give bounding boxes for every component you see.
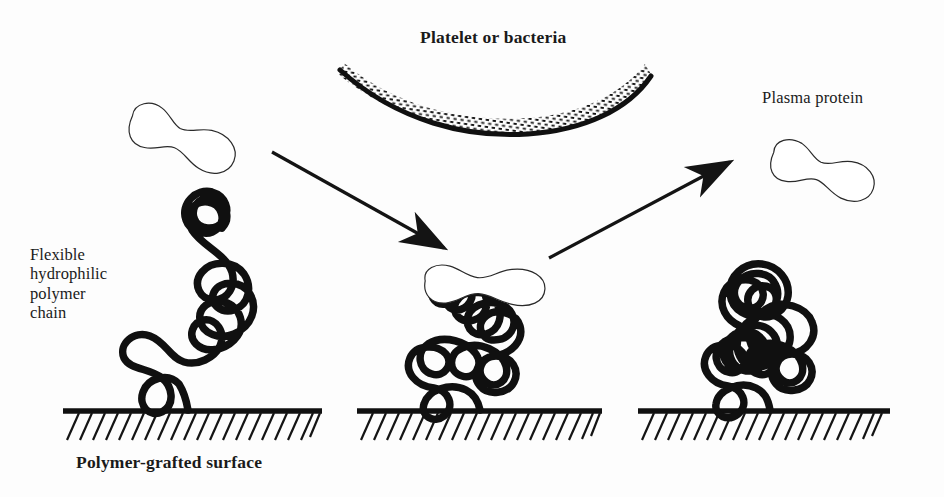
polymer-grafted-surface-2 [357, 411, 602, 440]
diagram-illustration [0, 0, 944, 497]
plasma-protein-released [766, 135, 880, 208]
plasma-protein-incoming [123, 98, 243, 181]
platelet-or-bacteria-membrane [338, 63, 652, 135]
polymer-grafted-surface-label: Polymer-grafted surface [76, 452, 262, 473]
diagram-canvas: Platelet or bacteria Plasma protein Flex… [0, 0, 944, 497]
polymer-grafted-surface-1 [63, 411, 322, 440]
polymer-chain-recoiled [704, 264, 813, 418]
polymer-grafted-surface-3 [638, 411, 890, 440]
plasma-protein-label: Plasma protein [762, 88, 863, 107]
polymer-chain-extended [123, 191, 254, 413]
adsorption-arrow [272, 152, 444, 248]
desorption-arrow [549, 162, 730, 258]
flexible-hydrophilic-polymer-chain-label: Flexible hydrophilic polymer chain [30, 245, 107, 323]
platelet-or-bacteria-label: Platelet or bacteria [420, 27, 567, 48]
